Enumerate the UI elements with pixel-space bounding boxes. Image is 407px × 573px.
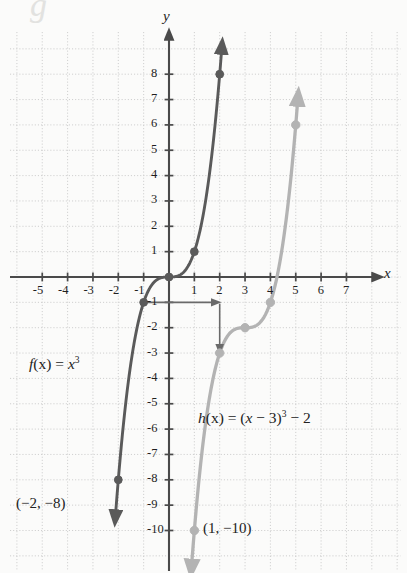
x-tick--4: -4: [58, 283, 68, 298]
f-label-arg: (x) =: [33, 355, 68, 372]
y-tick--4: -4: [147, 370, 157, 385]
x-tick--1: -1: [134, 283, 144, 298]
h-label-mid: − 3): [252, 409, 281, 426]
x-tick--5: -5: [33, 283, 43, 298]
x-tick--3: -3: [83, 283, 93, 298]
x-tick-2: 2: [216, 283, 222, 298]
y-tick--2: -2: [147, 319, 157, 334]
y-tick--10: -10: [147, 522, 164, 537]
y-tick--3: -3: [147, 345, 157, 360]
h-function-label: h(x) = (x − 3)3 − 2: [198, 409, 311, 427]
curves: [115, 46, 298, 570]
y-tick--8: -8: [147, 471, 157, 486]
f-label-exponent: 3: [75, 355, 80, 365]
h-label-arg: (x) = (: [206, 409, 246, 426]
x-tick-4: 4: [267, 283, 273, 298]
x-axis-label: x: [384, 265, 391, 282]
x-tick-3: 3: [242, 283, 248, 298]
y-tick--6: -6: [147, 421, 157, 436]
x-tick-7: 7: [343, 283, 349, 298]
figure-canvas: g -5-4-3-2-1123456787654321-1-2-3-4-5-6-…: [0, 0, 407, 573]
y-tick-8: 8: [151, 66, 157, 81]
y-axis-label: y: [163, 8, 170, 25]
f-function-label: f(x) = x3: [29, 355, 80, 373]
y-tick--9: -9: [147, 497, 157, 512]
x-tick-6: 6: [318, 283, 324, 298]
y-tick-1: 1: [151, 243, 157, 258]
y-tick-6: 6: [151, 116, 157, 131]
y-tick-4: 4: [151, 167, 157, 182]
grid-lines: [10, 32, 401, 571]
h-label-name: h: [198, 409, 206, 426]
f-endpoint-label: (−2, −8): [16, 495, 65, 512]
y-tick--5: -5: [147, 395, 157, 410]
h-endpoint-label: (1, −10): [203, 520, 251, 537]
h-label-tail: − 2: [287, 409, 311, 426]
y-tick-3: 3: [151, 192, 157, 207]
x-tick--2: -2: [109, 283, 119, 298]
y-tick--7: -7: [147, 446, 157, 461]
f-label-base: x: [68, 355, 75, 372]
y-tick-5: 5: [151, 142, 157, 157]
x-tick-1: 1: [191, 283, 197, 298]
y-tick--1: -1: [147, 294, 157, 309]
x-tick-5: 5: [292, 283, 298, 298]
y-tick-7: 7: [151, 91, 157, 106]
y-tick-2: 2: [151, 218, 157, 233]
